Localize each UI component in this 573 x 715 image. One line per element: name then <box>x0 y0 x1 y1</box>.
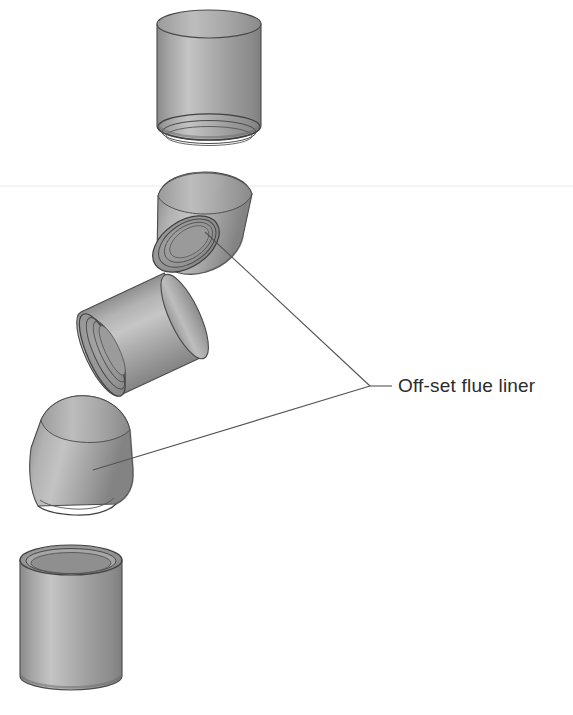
top-liner-top-cap <box>157 10 261 38</box>
bottom-liner-body <box>20 560 122 690</box>
component-off-set-flue-liner-lower[interactable] <box>30 396 133 515</box>
diagram-canvas: Off-set flue liner <box>0 0 573 715</box>
component-straight-flue-liner-top <box>157 10 261 146</box>
bottom-liner-socket-bore <box>31 553 111 574</box>
component-straight-flue-liner-bottom <box>20 545 122 690</box>
top-liner-body <box>157 24 261 140</box>
flue-liner-diagram: Off-set flue liner <box>0 0 573 715</box>
label-off-set-flue-liner: Off-set flue liner <box>398 375 536 396</box>
